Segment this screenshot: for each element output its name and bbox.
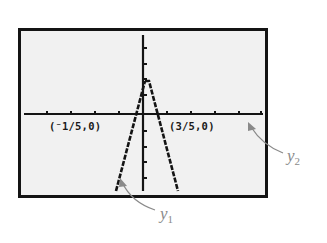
y1-callout: y1: [160, 204, 173, 225]
y2-callout: y2: [287, 146, 300, 167]
series-y1: [116, 81, 145, 191]
y2-callout-sub: 2: [295, 155, 301, 167]
y1-callout-sub: 1: [168, 213, 174, 225]
y1-callout-name: y: [160, 204, 168, 223]
y2-callout-name: y: [287, 146, 295, 165]
graph-plot: [21, 31, 265, 195]
series-y2: [145, 81, 178, 191]
right-intercept-label: (3/5,0): [169, 120, 215, 132]
calculator-screen: (⁻1/5,0) (3/5,0): [18, 28, 268, 198]
left-intercept-label: (⁻1/5,0): [49, 120, 101, 132]
